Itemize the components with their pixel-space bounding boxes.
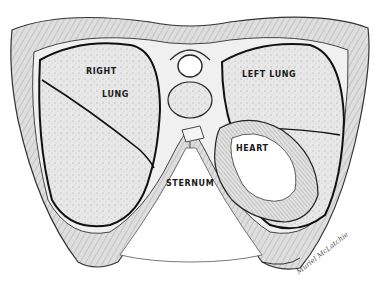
label-heart: HEART xyxy=(236,144,269,153)
thorax-illustration xyxy=(0,0,379,281)
thorax-cross-section-diagram: RIGHT LUNG LEFT LUNG HEART STERNUM Murie… xyxy=(0,0,379,281)
label-right-lung-line1: RIGHT xyxy=(86,67,117,76)
label-left-lung: LEFT LUNG xyxy=(242,70,296,79)
label-right-lung-line2: LUNG xyxy=(102,90,129,99)
label-sternum: STERNUM xyxy=(166,179,214,188)
vertebral-body xyxy=(168,82,212,118)
spinal-canal xyxy=(178,55,202,77)
